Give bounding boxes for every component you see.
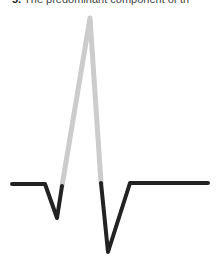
- baseline-left-and-q-wave: [12, 184, 62, 218]
- r-wave-highlight: [62, 18, 101, 186]
- s-wave-and-baseline-right: [101, 183, 208, 252]
- qrs-waveform-diagram: [0, 0, 221, 267]
